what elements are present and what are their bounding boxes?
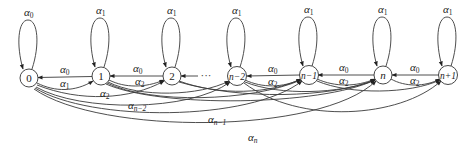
self-loop-1 [91,18,109,67]
self-loops [19,17,456,69]
self-loop-n-1 [299,17,317,66]
edge-1-to-0-label: α0 [60,63,70,77]
edge-n+1-to-n-label: α0 [410,61,420,75]
self-loop-n [373,17,391,66]
edge-0-to-n-2-label: αn−2 [128,99,147,113]
node-2-label: 2 [169,70,175,82]
self-loop-1-label: α1 [96,4,106,18]
edge-n-to-n+1-label: α2 [410,74,420,88]
edge-0-to-1-label: α1 [60,77,70,91]
self-loop-2-label: α1 [167,4,177,18]
node-2: 2 [163,67,181,85]
edge-1-to-2-label: α2 [135,75,145,89]
edge-n-to-n-1-label: α0 [339,61,349,75]
edge-n-1-to-n-2-label: α0 [268,62,278,76]
edge-n-2-to-n-1-label: α2 [268,75,278,89]
node-n+1: n+1 [439,66,458,85]
edge-n-1-to-n-label: α2 [339,74,349,88]
node-0-label: 0 [26,72,32,84]
node-n-label: n [380,69,386,81]
self-loop-0 [19,20,37,69]
self-loop-2 [162,18,180,67]
node-n-2-label: n−2 [229,72,245,82]
edge-0-to-n-1-label: αn−1 [208,113,226,127]
self-loop-n+1-label: α1 [443,3,453,17]
long-edges [34,81,376,123]
self-loop-n+1 [438,17,456,66]
edge-0-to-2-label: α2 [100,87,110,101]
self-loop-n-label: α1 [378,3,388,17]
node-n-1-label: n−1 [301,71,317,81]
ellipsis: ··· [201,69,212,81]
edge-0-to-n-label: αn [248,131,258,145]
edge-2-to-1-label: α0 [133,62,143,76]
node-n-2: n−2 [228,67,247,86]
self-loop-0-label: α0 [24,6,34,20]
node-1-label: 1 [98,70,104,82]
node-n+1-label: n+1 [440,71,456,81]
node-n-1: n−1 [300,66,319,85]
self-loop-n-1-label: α1 [304,3,314,17]
node-1: 1 [92,67,110,85]
state-transition-diagram: 0 1 2 ··· n−2 n−1 n n+1 α0 α1 [0,0,475,148]
self-loop-n-2 [227,18,245,67]
node-0: 0 [20,69,38,87]
node-n: n [374,66,392,84]
self-loop-n-2-label: α1 [232,4,242,18]
